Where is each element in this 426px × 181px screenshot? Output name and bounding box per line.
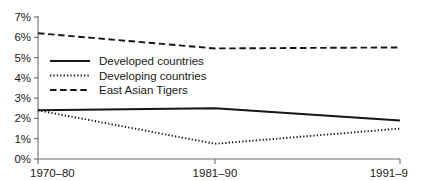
series-line-dashed <box>38 33 400 48</box>
chart-canvas: 0%1%2%3%4%5%6%7% 1970–801981–901991–9 De… <box>0 0 426 181</box>
series-line-dotted <box>38 110 400 143</box>
legend-label: Developed countries <box>99 55 204 67</box>
chart-legend: Developed countriesDeveloping countriesE… <box>50 55 207 96</box>
y-tick-label: 2% <box>14 112 31 124</box>
x-tick-label: 1981–90 <box>193 167 238 179</box>
x-axis-ticks: 1970–801981–901991–9 <box>30 159 408 179</box>
y-tick-label: 1% <box>14 133 31 145</box>
x-tick-label: 1991–9 <box>370 167 408 179</box>
y-tick-label: 4% <box>14 72 31 84</box>
y-tick-label: 0% <box>14 153 31 165</box>
y-tick-label: 3% <box>14 92 31 104</box>
series-line-solid <box>38 108 400 120</box>
legend-label: Developing countries <box>99 70 207 82</box>
y-tick-label: 7% <box>14 11 31 23</box>
y-axis-ticks: 0%1%2%3%4%5%6%7% <box>14 11 38 165</box>
line-chart: 0%1%2%3%4%5%6%7% 1970–801981–901991–9 De… <box>0 0 426 181</box>
legend-label: East Asian Tigers <box>99 84 188 96</box>
y-tick-label: 5% <box>14 52 31 64</box>
x-tick-label: 1970–80 <box>30 167 75 179</box>
data-series-group <box>38 33 400 144</box>
y-tick-label: 6% <box>14 31 31 43</box>
